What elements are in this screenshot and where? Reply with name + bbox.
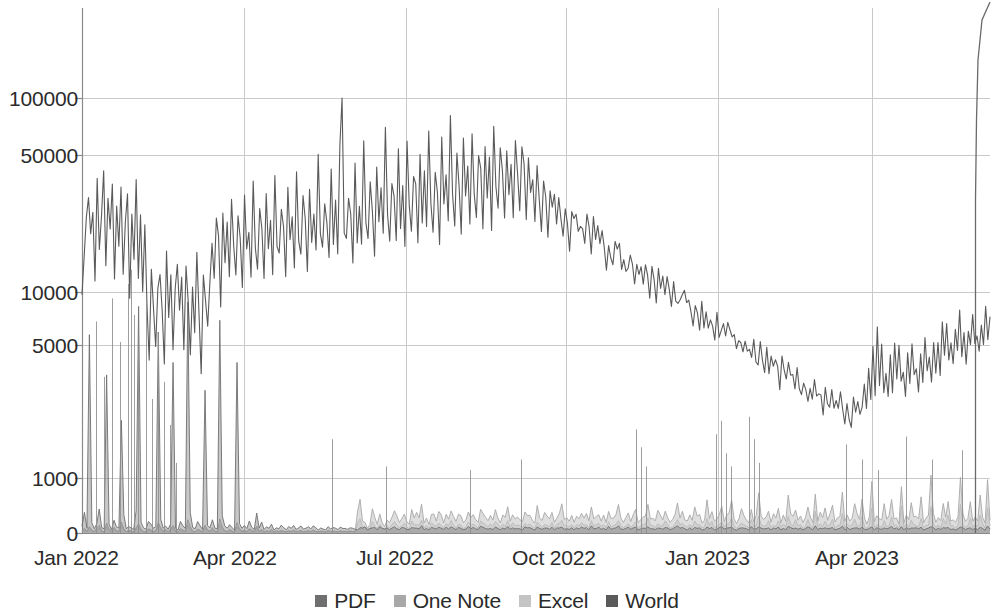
legend-label-pdf: PDF	[334, 590, 375, 611]
chart-container: 100000 50000 10000 5000 1000 0 Jan 2022 …	[0, 0, 994, 612]
y-axis-label-1000: 1000	[32, 468, 78, 489]
y-axis-label-0: 0	[67, 523, 78, 544]
legend-label-excel: Excel	[538, 590, 588, 611]
x-axis-label-jan-2022: Jan 2022	[34, 547, 119, 568]
legend-label-one-note: One Note	[413, 590, 501, 611]
legend-item-one-note[interactable]: One Note	[394, 590, 501, 611]
legend-item-excel[interactable]: Excel	[519, 590, 588, 611]
y-axis-label-100000: 100000	[9, 88, 78, 109]
y-axis-label-50000: 50000	[21, 145, 78, 166]
legend-item-world[interactable]: World	[606, 590, 678, 611]
x-axis-label-jan-2023: Jan 2023	[665, 547, 750, 568]
x-axis-label-jul-2022: Jul 2022	[356, 547, 434, 568]
legend-swatch-world	[606, 595, 618, 607]
legend-swatch-one-note	[394, 595, 406, 607]
legend-label-world: World	[625, 590, 678, 611]
x-axis-label-apr-2022: Apr 2022	[193, 547, 277, 568]
legend-swatch-pdf	[315, 595, 327, 607]
x-axis-label-oct-2022: Oct 2022	[512, 547, 596, 568]
y-axis-label-5000: 5000	[32, 335, 78, 356]
x-axis-label-apr-2023: Apr 2023	[815, 547, 899, 568]
legend-swatch-excel	[519, 595, 531, 607]
chart-legend: PDF One Note Excel World	[0, 590, 994, 611]
chart-plot-area	[0, 0, 994, 612]
y-axis-label-10000: 10000	[21, 282, 78, 303]
legend-item-pdf[interactable]: PDF	[315, 590, 375, 611]
